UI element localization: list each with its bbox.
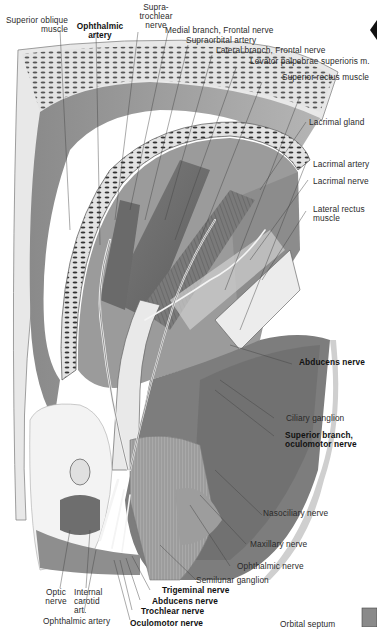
label-abducens-nerve-bottom: Abducens nerve xyxy=(152,597,218,606)
bone-fragment xyxy=(362,608,377,627)
label-levator-palpebrae: Levator palpebrae superioris m. xyxy=(250,57,370,66)
label-superior-oblique-muscle: Superior oblique muscle xyxy=(2,16,68,34)
label-semilunar-ganglion: Semilunar ganglion xyxy=(196,576,269,585)
label-internal-carotid-artery: Internal carotid art. xyxy=(74,588,102,616)
label-maxillary-nerve: Maxillary nerve xyxy=(250,540,307,549)
label-abducens-nerve-right: Abducens nerve xyxy=(299,358,365,367)
label-ophthalmic-artery-top: Ophthalmic artery xyxy=(68,22,132,40)
label-trigeminal-nerve: Trigeminal nerve xyxy=(162,586,230,595)
label-superior-branch-oculomotor-nerve: Superior branch, oculomotor nerve xyxy=(285,431,357,449)
label-supraorbital-artery: Supraorbital artery xyxy=(186,36,256,45)
page-marker xyxy=(370,20,377,40)
label-medial-branch-frontal-nerve: Medial branch, Frontal nerve xyxy=(165,26,273,35)
label-nasociliary-nerve: Nasociliary nerve xyxy=(263,509,328,518)
label-lateral-branch-frontal-nerve: Lateral branch, Frontal nerve xyxy=(216,46,325,55)
label-lacrimal-nerve: Lacrimal nerve xyxy=(313,177,369,186)
label-trochlear-nerve: Trochlear nerve xyxy=(141,607,204,616)
label-orbital-septum: Orbital septum xyxy=(280,620,335,629)
label-ophthalmic-artery-bottom: Ophthalmic artery xyxy=(43,617,110,626)
label-superior-rectus-muscle: Superior rectus muscle xyxy=(282,73,369,82)
label-ciliary-ganglion: Ciliary ganglion xyxy=(286,414,344,423)
label-lateral-rectus-muscle: Lateral rectus muscle xyxy=(313,205,365,223)
label-lacrimal-gland: Lacrimal gland xyxy=(309,118,364,127)
label-optic-nerve: Optic nerve xyxy=(40,588,72,606)
label-oculomotor-nerve: Oculomotor nerve xyxy=(130,619,203,628)
label-ophthalmic-nerve: Ophthalmic nerve xyxy=(237,562,304,571)
label-lacrimal-artery: Lacrimal artery xyxy=(313,160,369,169)
